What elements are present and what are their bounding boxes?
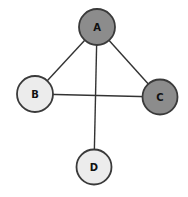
node-c-label: C: [156, 92, 163, 103]
edge-a-d: [94, 27, 97, 167]
node-b-label: B: [31, 89, 39, 100]
node-a-label: A: [93, 22, 101, 33]
node-b[interactable]: B: [17, 76, 53, 112]
node-a[interactable]: A: [79, 9, 115, 45]
node-c[interactable]: C: [143, 80, 178, 115]
nodes: A B C D: [17, 9, 178, 185]
node-d-label: D: [90, 162, 98, 173]
graph-diagram: A B C D: [0, 0, 188, 197]
edges: [35, 27, 160, 167]
node-d[interactable]: D: [77, 150, 112, 185]
